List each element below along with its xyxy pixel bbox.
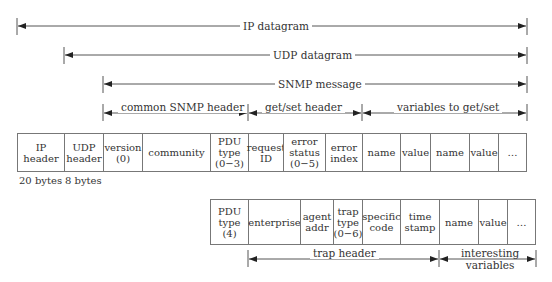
error-index-cell: error index — [325, 133, 363, 172]
enterprise-cell: enterprise — [248, 199, 301, 245]
agent-addr-cell: agent addr — [300, 199, 334, 245]
udp-header-cell: UDP header — [64, 133, 104, 172]
error-status-cell: error status (0−5) — [283, 133, 326, 172]
name-cell: name — [430, 133, 470, 172]
name-cell: name — [439, 199, 479, 245]
trap-type-cell: trap type (0−6) — [333, 199, 363, 245]
value-cell: value — [478, 199, 508, 245]
specific-code-cell: specific code — [362, 199, 401, 245]
udp-header-size: 8 bytes — [65, 175, 102, 186]
ellipsis-cell: … — [507, 199, 536, 245]
ip-header-cell: IP header — [17, 133, 65, 172]
community-cell: community — [142, 133, 211, 172]
snmp-message-label: SNMP message — [275, 78, 365, 90]
trap-header-label: trap header — [310, 247, 379, 259]
name-cell: name — [362, 133, 401, 172]
get-set-header-label: get/set header — [262, 101, 345, 113]
pdu-type-cell: PDU type (0−3) — [210, 133, 249, 172]
value-cell: value — [469, 133, 499, 172]
ellipsis-cell: … — [498, 133, 527, 172]
value-cell: value — [400, 133, 431, 172]
version-cell: version (0) — [103, 133, 143, 172]
interesting-variables-label: interesting variables — [458, 247, 522, 271]
common-snmp-header-label: common SNMP header — [118, 101, 247, 113]
variables-label: variables to get/set — [394, 101, 502, 113]
request-id-cell: request ID — [248, 133, 284, 172]
udp-datagram-label: UDP datagram — [270, 49, 355, 61]
ip-header-size: 20 bytes — [19, 175, 62, 186]
trap-pdu-type-cell: PDU type (4) — [210, 199, 249, 245]
time-stamp-cell: time stamp — [400, 199, 440, 245]
ip-datagram-label: IP datagram — [240, 20, 312, 32]
